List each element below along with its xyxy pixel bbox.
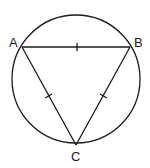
label-c: C xyxy=(71,149,80,164)
label-a: A xyxy=(9,35,18,50)
diagram-canvas: A B C xyxy=(0,0,150,168)
circumcircle xyxy=(12,15,140,143)
label-b: B xyxy=(134,35,143,50)
